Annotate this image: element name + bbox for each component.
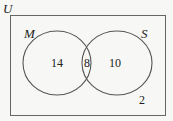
region-neither: 2 [139,93,145,107]
region-m-and-s: 8 [84,56,90,70]
venn-diagram: U M S 14 8 10 2 [0,0,173,121]
set-s-label: S [141,26,148,41]
universe-label: U [3,1,14,16]
region-m-only: 14 [51,56,63,70]
region-s-only: 10 [109,56,121,70]
set-m-label: M [23,26,36,41]
